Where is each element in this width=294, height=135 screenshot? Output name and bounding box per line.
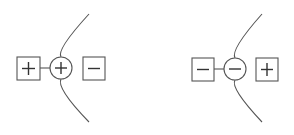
boundary-arc-lower (234, 80, 262, 122)
center-circle-plus (50, 57, 72, 79)
left-box-minus (192, 58, 214, 81)
boundary-arc-lower (60, 79, 89, 122)
right-box-minus (83, 57, 105, 80)
left-panel (17, 14, 105, 122)
left-box-plus (17, 57, 40, 80)
right-panel (192, 14, 278, 122)
boundary-arc-upper (234, 14, 262, 58)
diagram-canvas (0, 0, 294, 135)
right-box-plus (256, 58, 278, 81)
center-circle-minus (224, 58, 246, 80)
boundary-arc-upper (60, 14, 89, 57)
